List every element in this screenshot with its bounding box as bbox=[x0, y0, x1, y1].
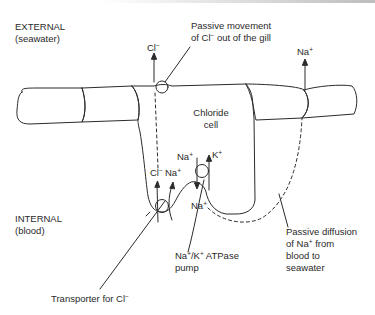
internal-subtitle: (blood) bbox=[15, 225, 62, 237]
annotation-passive-cl-line2: of Cl− out of the gill bbox=[191, 32, 271, 44]
cell-label-line2: cell bbox=[182, 119, 240, 131]
cl-in-arrowhead bbox=[155, 181, 160, 187]
annotation-passive-cl-line1: Passive movement bbox=[191, 20, 271, 32]
epithelial-cell-left-2 bbox=[82, 86, 139, 122]
ion-na-pump-in: Na+ bbox=[177, 151, 193, 162]
external-title: EXTERNAL bbox=[15, 21, 65, 33]
cl-path-dashed bbox=[155, 93, 158, 168]
ion-cl-outside: Cl− bbox=[147, 42, 160, 53]
annotation-passive-na-line4: seawater bbox=[286, 262, 357, 274]
na-pump-arrowhead bbox=[195, 183, 200, 189]
ion-k-pump: K+ bbox=[212, 149, 222, 160]
epithelial-cell-left-1 bbox=[17, 88, 85, 124]
cell-label-line1: Chloride bbox=[182, 107, 240, 119]
annotation-passive-na-line3: blood to bbox=[286, 250, 357, 262]
chloride-cell-outline bbox=[132, 84, 255, 214]
ion-na-outside: Na+ bbox=[297, 46, 313, 57]
na-in-arrowhead bbox=[170, 182, 175, 189]
annotation-passive-na-line1: Passive diffusion bbox=[286, 226, 357, 238]
epithelial-cell-right-2 bbox=[302, 85, 357, 118]
annotation-passive-na-line2: of Na+ from bbox=[286, 238, 357, 250]
cl-channel-circle bbox=[156, 81, 168, 93]
cl-exit-arrowhead bbox=[152, 53, 157, 59]
pump-pointer bbox=[188, 180, 204, 252]
ion-cl-cotransport: Cl− bbox=[150, 167, 163, 178]
ion-na-cotransport: Na+ bbox=[165, 167, 181, 178]
cl-in-arrow bbox=[157, 184, 158, 222]
transporter-pointer bbox=[100, 201, 165, 289]
annotation-transporter: Transporter for Cl− bbox=[51, 293, 129, 305]
external-label: EXTERNAL (seawater) bbox=[15, 21, 65, 45]
annotation-pump: Na+/K+ ATPase pump bbox=[175, 250, 239, 274]
na-exit-arrowhead bbox=[303, 59, 308, 65]
annotation-passive-na: Passive diffusion of Na+ from blood to s… bbox=[286, 226, 357, 274]
external-subtitle: (seawater) bbox=[15, 33, 65, 45]
k-pump-arrowhead bbox=[207, 155, 212, 161]
annotation-pump-line1: Na+/K+ ATPase bbox=[175, 250, 239, 262]
annotation-pump-line2: pump bbox=[175, 262, 239, 274]
na-diffusion-pointer bbox=[279, 194, 288, 227]
epithelial-cell-right-1 bbox=[246, 84, 308, 120]
internal-label: INTERNAL (blood) bbox=[15, 213, 62, 237]
internal-title: INTERNAL bbox=[15, 213, 62, 225]
ion-na-pump-out: Na+ bbox=[191, 200, 207, 211]
cl-channel-pointer bbox=[165, 47, 190, 82]
na-in-arrow bbox=[169, 186, 172, 220]
chloride-cell-label: Chloride cell bbox=[182, 107, 240, 131]
annotation-passive-cl: Passive movement of Cl− out of the gill bbox=[191, 20, 271, 44]
cotransporter-stem-left bbox=[146, 212, 150, 216]
